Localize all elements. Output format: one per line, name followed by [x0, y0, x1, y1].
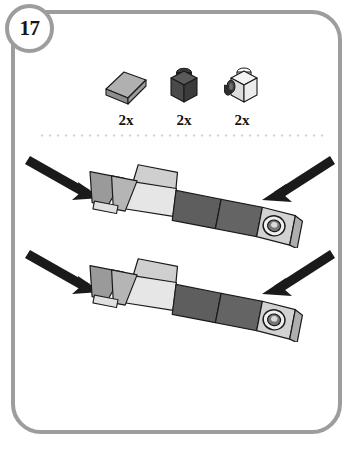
brick-1x1-icon — [162, 62, 206, 110]
slope-brick-icon — [100, 62, 152, 110]
part-item-brick-1x1: 2x — [158, 62, 210, 128]
assembly-illustration-top — [22, 152, 338, 248]
step-number-label: 17 — [20, 18, 40, 39]
placement-arrow-upper-left — [25, 156, 101, 200]
parts-inventory: 2x 2x — [100, 50, 268, 128]
part-item-slope-brick: 2x — [100, 62, 152, 128]
placement-arrow-lower-right — [262, 250, 335, 296]
step-number-badge: 17 — [5, 4, 54, 53]
instruction-page: 17 2x — [0, 0, 360, 451]
sub-assembly-model — [83, 250, 307, 342]
part-quantity-label: 2x — [119, 113, 134, 128]
headlight-brick-icon — [219, 62, 265, 110]
placement-arrow-lower-left — [25, 250, 101, 294]
placement-arrow-upper-right — [262, 156, 335, 202]
assembly-illustration-bottom — [22, 246, 338, 342]
part-quantity-label: 2x — [235, 113, 250, 128]
part-item-headlight-brick: 2x — [216, 62, 268, 128]
part-quantity-label: 2x — [177, 113, 192, 128]
sub-assembly-model — [83, 156, 307, 248]
dotted-divider — [38, 134, 323, 137]
